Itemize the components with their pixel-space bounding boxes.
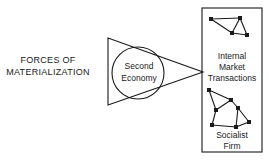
- internal-market-network-edge: [240, 18, 247, 35]
- forces-of-materialization-line2: MATERIALIZATION: [6, 67, 90, 77]
- internal-market-network-node: [209, 17, 213, 21]
- forces-of-materialization-line1: FORCES OF: [20, 55, 75, 65]
- socialist-firm-label-line2: Firm: [224, 141, 241, 151]
- socialist-firm-network-node: [234, 125, 238, 129]
- internal-market-network-node: [238, 16, 242, 20]
- internal-market-network-edge: [232, 33, 247, 35]
- socialist-firm-network-edge: [216, 100, 231, 110]
- socialist-firm-network-graph: [207, 88, 251, 129]
- socialist-firm-network-node: [207, 88, 211, 92]
- internal-market-network-graph: [209, 16, 249, 37]
- socialist-firm-network-node: [229, 98, 233, 102]
- internal-market-network-edge: [232, 18, 240, 33]
- internal-market-network-edge: [211, 18, 240, 19]
- right-pointing-triangle: [108, 38, 203, 105]
- socialist-firm-network-edge: [236, 108, 238, 127]
- socialist-firm-network-edge: [212, 110, 216, 125]
- diagram-svg: FORCES OF MATERIALIZATION Second Economy…: [0, 0, 269, 164]
- socialist-firm-network-node: [210, 123, 214, 127]
- socialist-firm-network-edge: [238, 108, 249, 122]
- internal-market-network-node: [230, 31, 234, 35]
- socialist-firm-network-node: [214, 108, 218, 112]
- socialist-firm-label-line1: Socialist: [216, 130, 248, 140]
- internal-market-label-line2: Market: [219, 62, 246, 72]
- socialist-firm-network-node: [247, 120, 251, 124]
- internal-market-network-edge: [211, 19, 232, 33]
- internal-market-label-line1: Internal: [218, 51, 246, 61]
- internal-market-network-node: [245, 33, 249, 37]
- second-economy-label-line2: Economy: [121, 73, 157, 83]
- internal-market-label-line3: Transactions: [208, 73, 256, 83]
- figure-canvas: FORCES OF MATERIALIZATION Second Economy…: [0, 0, 269, 164]
- socialist-firm-network-node: [236, 106, 240, 110]
- second-economy-label-line1: Second: [125, 61, 154, 71]
- socialist-firm-network-edge: [212, 125, 236, 127]
